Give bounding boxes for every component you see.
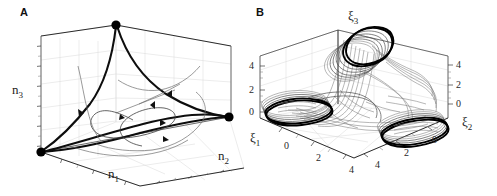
- panel-b-ztick-right-2: 2: [456, 79, 461, 90]
- node-saddle-n2: [224, 112, 233, 121]
- panel-b-xi3-sub: 3: [354, 16, 359, 26]
- panel-b-xtick-2: 2: [316, 152, 321, 163]
- panel-b-ztick-right-0: 0: [456, 98, 461, 109]
- panel-b-axis-label-xi2: ξ2: [462, 114, 472, 132]
- panel-a-gridlines: [41, 25, 244, 186]
- panel-a-axis-label-n3: n3: [12, 82, 23, 100]
- panel-b-ticks-right: [448, 65, 453, 104]
- panel-a-n2-sub: 2: [225, 156, 230, 166]
- panel-a-guide-lines: [41, 25, 229, 152]
- panel-a-n3-sub: 3: [19, 90, 24, 100]
- panel-b-bundle-xi1: [261, 90, 332, 125]
- panel-b-axis-label-xi1: ξ1: [250, 130, 260, 148]
- panel-a-n1-sub: 1: [115, 174, 120, 184]
- panel-b-ztick-left-4: 4: [249, 60, 254, 71]
- panel-a-axis-label-n1: n1: [108, 166, 119, 184]
- panel-b-xtick-4: 4: [349, 164, 354, 175]
- panel-a-axis-label-n2: n2: [218, 148, 229, 166]
- panel-b-xi1-sub: 1: [256, 138, 261, 148]
- panel-b-ytick-0: 0: [432, 134, 437, 145]
- panel-b-xi2-sub: 2: [468, 122, 473, 132]
- panel-a-plot: [0, 0, 249, 196]
- panel-b: B: [248, 0, 497, 196]
- panel-b-ytick-4: 4: [375, 159, 380, 170]
- panel-b-bundle-xi2: [377, 110, 448, 147]
- panel-a-heteroclinic-cycle: [42, 26, 228, 152]
- panel-b-ztick-right-4: 4: [456, 59, 461, 70]
- panel-b-xtick-0: 0: [284, 140, 289, 151]
- panel-b-axis-label-xi3: ξ3: [348, 8, 358, 26]
- panel-b-ytick-2: 2: [404, 147, 409, 158]
- panel-a-ticks-n3: [37, 46, 41, 146]
- panel-b-ztick-left-2: 2: [249, 84, 254, 95]
- panel-a: A: [0, 0, 249, 196]
- figure-root: A: [0, 0, 497, 196]
- panel-b-ztick-left-0: 0: [249, 106, 254, 117]
- node-saddle-n3: [111, 20, 120, 29]
- node-saddle-n1: [36, 147, 45, 156]
